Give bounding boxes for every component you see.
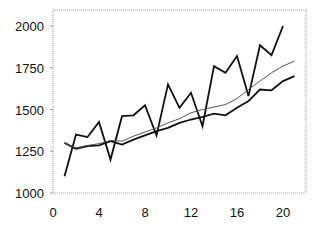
plot-frame <box>53 10 306 193</box>
x-tick-label: 16 <box>230 205 244 220</box>
y-tick-label: 1000 <box>15 186 44 201</box>
y-tick-label: 1750 <box>15 61 44 76</box>
x-tick-label: 8 <box>141 205 148 220</box>
y-axis: 10001250150017502000 <box>15 19 53 201</box>
x-tick-label: 0 <box>49 205 56 220</box>
y-tick-label: 1500 <box>15 103 44 118</box>
y-tick-label: 1250 <box>15 144 44 159</box>
line-chart: 10001250150017502000 048121620 <box>0 0 320 231</box>
x-axis: 048121620 <box>49 205 290 220</box>
x-tick-label: 20 <box>276 205 290 220</box>
y-tick-label: 2000 <box>15 19 44 34</box>
x-tick-label: 12 <box>184 205 198 220</box>
x-tick-label: 4 <box>95 205 102 220</box>
